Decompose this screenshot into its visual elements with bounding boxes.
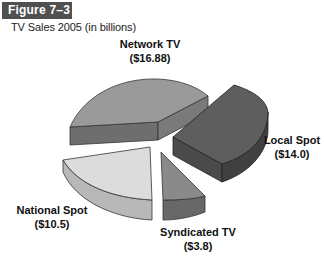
label-local-spot: Local Spot <box>264 134 321 146</box>
value-network-tv: ($16.88) <box>130 52 171 64</box>
value-local-spot: ($14.0) <box>275 148 310 160</box>
label-syndicated-tv: Syndicated TV <box>160 226 236 238</box>
pie-chart: Network TV ($16.88) Local Spot ($14.0) N… <box>0 0 324 257</box>
value-syndicated-tv: ($3.8) <box>184 240 213 252</box>
label-network-tv: Network TV <box>120 38 181 50</box>
label-national-spot: National Spot <box>17 204 88 216</box>
value-national-spot: ($10.5) <box>35 218 70 230</box>
